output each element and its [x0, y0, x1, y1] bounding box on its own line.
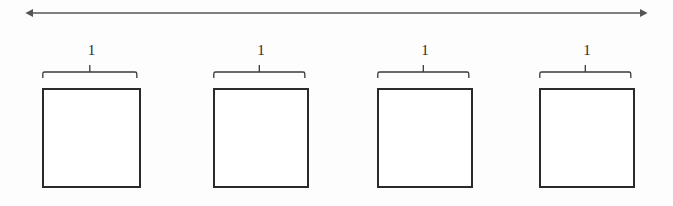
unit-box-3	[377, 88, 473, 188]
unit-brace-4	[539, 62, 635, 82]
brace-icon	[377, 62, 473, 82]
brace-icon	[539, 62, 635, 82]
unit-label-2: 1	[213, 42, 309, 59]
brace-icon	[42, 62, 141, 82]
unit-box-4	[539, 88, 635, 188]
unit-group-3: 1	[377, 0, 473, 206]
unit-brace-3	[377, 62, 473, 82]
unit-label-1: 1	[42, 42, 141, 59]
brace-icon	[213, 62, 309, 82]
unit-box-1	[42, 88, 141, 188]
unit-brace-2	[213, 62, 309, 82]
unit-group-2: 1	[213, 0, 309, 206]
unit-group-1: 1	[42, 0, 141, 206]
unit-brace-1	[42, 62, 141, 82]
unit-group-4: 1	[539, 0, 635, 206]
unit-label-3: 1	[377, 42, 473, 59]
unit-label-4: 1	[539, 42, 635, 59]
measurement-figure: 1 1 1 1	[0, 0, 673, 206]
unit-box-2	[213, 88, 309, 188]
